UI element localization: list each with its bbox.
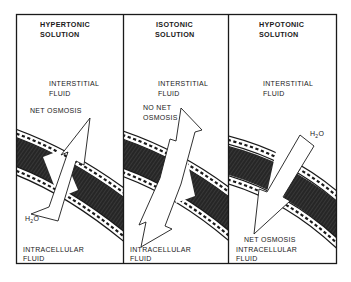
panel-1-outside-label-2: FLUID	[49, 90, 71, 97]
panel-2-outside-label-2: FLUID	[158, 90, 180, 97]
panel-1-inside-label-2: FLUID	[23, 255, 45, 262]
panel-1-outside-label-1: INTERSTITIAL	[49, 80, 99, 87]
panel-1-water-label: H2O	[25, 215, 39, 224]
panel-2-title-line-2: SOLUTION	[155, 30, 195, 39]
panel-1-title-line-2: SOLUTION	[40, 30, 80, 39]
panel-hypertonic	[0, 118, 140, 250]
panel-3-inside-label-1: INTRACELLULAR	[236, 246, 297, 253]
panel-2-title-line-1: ISOTONIC	[156, 20, 193, 29]
panel-2-inside-label-2: FLUID	[130, 255, 152, 262]
panel-3-outside-label-2: FLUID	[263, 90, 285, 97]
panel-3-inside-label-2: FLUID	[236, 255, 258, 262]
panel-2-inside-label-1: INTRACELLULAR	[130, 246, 191, 253]
panel-3-title-line-2: SOLUTION	[259, 30, 299, 39]
panel-2-outside-label-1: INTERSTITIAL	[158, 80, 208, 87]
panel-1-title-line-1: HYPERTONIC	[40, 20, 90, 29]
panel-2-no-net-label-1: NO NET	[143, 104, 172, 111]
panel-3-title-line-1: HYPOTONIC	[259, 20, 304, 29]
panel-2-no-net-label-2: OSMOSIS	[143, 114, 178, 121]
panel-3-water-label: H2O	[310, 130, 324, 139]
panel-1-net-osmosis-label: NET OSMOSIS	[30, 107, 82, 114]
panel-3-outside-label-1: INTERSTITIAL	[263, 80, 313, 87]
panel-3-net-osmosis-label: NET OSMOSIS	[244, 236, 296, 243]
panel-1-inside-label-1: INTRACELLULAR	[23, 246, 84, 253]
osmosis-diagram: HYPERTONIC SOLUTION INTERSTITIAL FLUID N…	[0, 0, 351, 282]
